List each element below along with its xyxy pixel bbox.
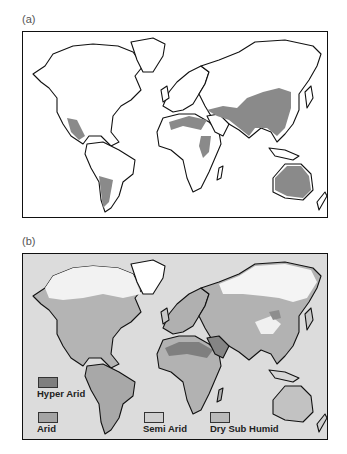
map-panel-b (22, 253, 328, 440)
indonesia (269, 370, 299, 382)
legend-swatch-dry-sub-humid (210, 412, 230, 423)
legend-label-semi-arid: Semi Arid (143, 423, 187, 434)
panel-b-label: (b) (22, 235, 35, 247)
world-map-b (23, 254, 328, 440)
panel-a-label: (a) (22, 13, 35, 25)
madagascar (217, 166, 223, 180)
legend-label-hyper-arid: Hyper Arid (37, 388, 85, 399)
map-panel-a (22, 31, 328, 218)
new-zealand (317, 414, 327, 432)
japan (305, 308, 313, 330)
legend-label-arid: Arid (37, 423, 56, 434)
indonesia (269, 148, 299, 160)
japan (305, 86, 313, 108)
world-map-a (23, 32, 328, 218)
legend-swatch-hyper-arid (38, 377, 58, 388)
legend-label-dry-sub-humid: Dry Sub Humid (210, 423, 279, 434)
madagascar (217, 388, 223, 402)
australia (273, 386, 313, 422)
legend-swatch-arid (38, 412, 58, 423)
new-zealand (317, 192, 327, 210)
south-america (85, 364, 135, 434)
legend-swatch-semi-arid (144, 412, 164, 423)
south-america (85, 142, 135, 212)
north-america (33, 44, 143, 146)
